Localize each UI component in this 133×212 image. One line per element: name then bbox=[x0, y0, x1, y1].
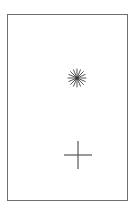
plus-icon bbox=[63, 140, 93, 170]
asterisk-icon bbox=[67, 68, 87, 88]
card-frame bbox=[7, 14, 128, 201]
